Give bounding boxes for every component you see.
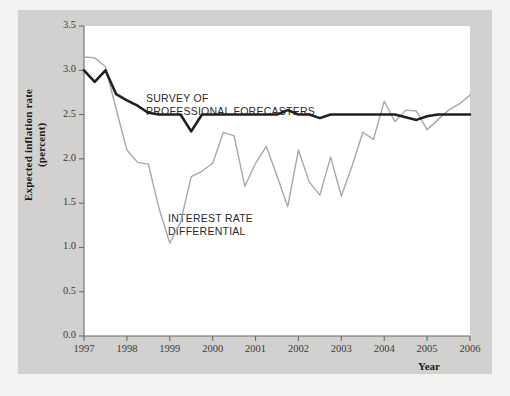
series-line-interest-rate-differential <box>84 57 470 243</box>
data-series-layer <box>84 57 470 243</box>
chart-svg-layer <box>0 0 510 396</box>
series-line-survey-of-professional-forecasters <box>84 70 470 131</box>
axis-tick-marks <box>79 26 470 341</box>
figure-canvas: Expected inflation rate (percent) 3.53.0… <box>0 0 510 396</box>
axis-lines <box>84 26 470 336</box>
chart-svg <box>0 0 510 396</box>
